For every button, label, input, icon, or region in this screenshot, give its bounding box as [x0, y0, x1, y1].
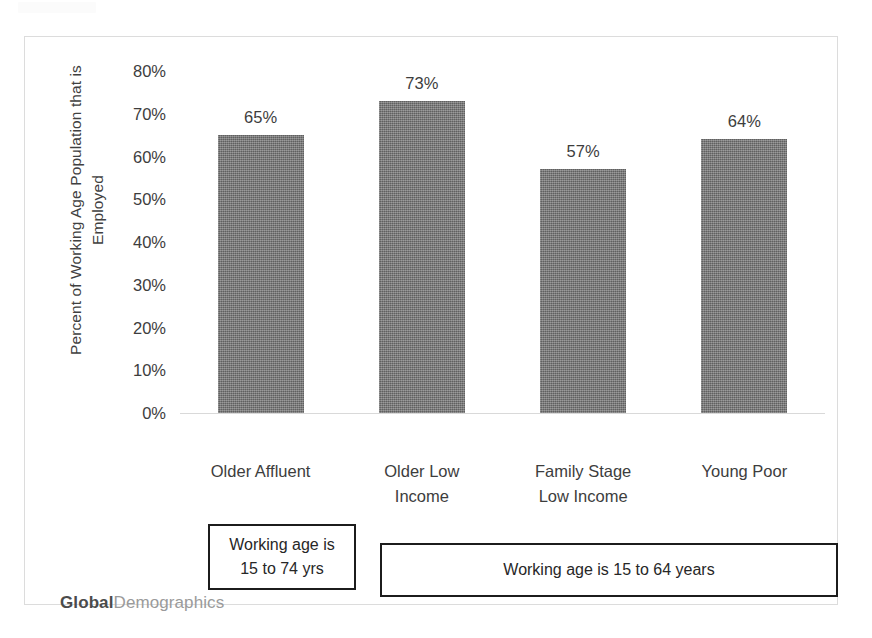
y-axis-tick-label: 80%: [106, 62, 166, 81]
y-axis-tick-label: 70%: [106, 104, 166, 123]
bar-slot: 65%: [180, 71, 341, 413]
plot-area: 80%70%60%50%40%30%20%10%0%65%73%57%64%: [180, 71, 825, 413]
x-axis-line: [180, 413, 825, 414]
y-axis-title: Percent of Working Age Population that i…: [64, 50, 110, 370]
y-axis-tick-label: 20%: [106, 318, 166, 337]
bar[interactable]: [701, 139, 787, 413]
brand-secondary-text: Demographics: [114, 593, 225, 612]
y-axis-tick-label: 40%: [106, 233, 166, 252]
bar-value-label: 64%: [728, 112, 761, 131]
x-axis-category-label: Young Poor: [664, 459, 825, 484]
annotation-working-age-64-text: Working age is 15 to 64 years: [503, 558, 714, 582]
y-axis-tick-label: 60%: [106, 147, 166, 166]
bar[interactable]: [540, 169, 626, 413]
bar[interactable]: [379, 101, 465, 413]
annotation-working-age-74-text: Working age is 15 to 74 yrs: [229, 533, 335, 581]
y-axis-tick-label: 50%: [106, 190, 166, 209]
x-axis-category-label: Older Low Income: [341, 459, 502, 509]
annotation-working-age-74: Working age is 15 to 74 yrs: [208, 524, 356, 590]
chart-frame: Percent of Working Age Population that i…: [24, 36, 838, 605]
y-axis-tick-label: 10%: [106, 361, 166, 380]
x-axis-category-label: Older Affluent: [180, 459, 341, 484]
x-axis-category-label: Family Stage Low Income: [503, 459, 664, 509]
brand-primary-text: Global: [60, 593, 114, 612]
scan-artifact: [18, 2, 96, 13]
bar-value-label: 73%: [405, 74, 438, 93]
bar-slot: 73%: [341, 71, 502, 413]
bar-slot: 57%: [503, 71, 664, 413]
bar-slot: 64%: [664, 71, 825, 413]
y-axis-title-text: Percent of Working Age Population that i…: [65, 50, 109, 370]
y-axis-tick-label: 30%: [106, 275, 166, 294]
bar-value-label: 57%: [567, 142, 600, 161]
annotation-working-age-64: Working age is 15 to 64 years: [380, 543, 838, 597]
brand-logo: GlobalDemographics: [60, 593, 224, 613]
bar-value-label: 65%: [244, 108, 277, 127]
bar[interactable]: [218, 135, 304, 413]
y-axis-tick-label: 0%: [106, 404, 166, 423]
